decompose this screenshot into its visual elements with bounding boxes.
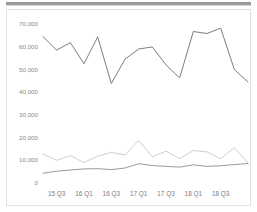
y-axis-tick-label: 30,000 xyxy=(19,111,38,118)
document-top-rule-shadow xyxy=(6,5,251,6)
y-axis-tick-label: 20,000 xyxy=(19,134,38,141)
series-group xyxy=(43,28,248,173)
x-axis-tick-label: 18 Q3 xyxy=(212,190,230,198)
series-line-series-1 xyxy=(43,28,248,83)
y-axis-tick-labels: 010,00020,00030,00040,00050,00060,00070,… xyxy=(19,20,38,186)
chart-frame: 010,00020,00030,00040,00050,00060,00070,… xyxy=(6,9,251,206)
x-axis-tick-label: 16 Q1 xyxy=(75,190,93,198)
chart-screenshot: 010,00020,00030,00040,00050,00060,00070,… xyxy=(0,0,257,212)
series-line-series-3 xyxy=(43,163,248,173)
y-axis-tick-label: 70,000 xyxy=(19,20,38,27)
y-axis-tick-label: 40,000 xyxy=(19,88,38,95)
x-axis-tick-label: 16 Q3 xyxy=(103,190,121,198)
series-line-series-2 xyxy=(43,140,248,163)
y-axis-tick-label: 10,000 xyxy=(19,156,38,163)
line-chart: 010,00020,00030,00040,00050,00060,00070,… xyxy=(7,10,250,205)
x-axis-tick-label: 17 Q3 xyxy=(157,190,175,198)
y-axis-tick-label: 60,000 xyxy=(19,43,38,50)
x-axis-tick-labels: 15 Q316 Q116 Q317 Q117 Q318 Q118 Q3 xyxy=(48,190,230,198)
x-axis-tick-label: 18 Q1 xyxy=(185,190,203,198)
x-axis-tick-label: 17 Q1 xyxy=(130,190,148,198)
y-axis-tick-label: 50,000 xyxy=(19,66,38,73)
x-axis-tick-label: 15 Q3 xyxy=(48,190,66,198)
y-axis-tick-label: 0 xyxy=(35,179,39,186)
